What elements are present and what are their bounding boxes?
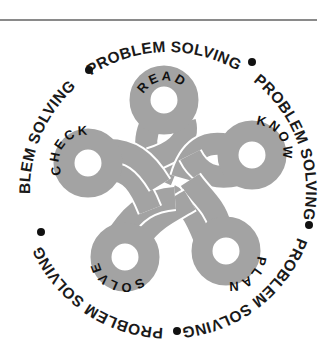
separator-dot-icon — [248, 58, 256, 66]
loop-plan: PLAN — [202, 227, 269, 294]
loop-solve: SOLVE — [87, 233, 149, 295]
loop-check: CHECK — [47, 123, 112, 187]
loop-read: READ — [134, 68, 190, 124]
separator-dot-icon — [305, 221, 313, 229]
problem-solving-knot-diagram: READ KNOW PLAN SOLVE CHECK PROBLEM SOLVI… — [0, 0, 334, 360]
separator-dot-icon — [37, 228, 45, 236]
separator-dot-icon — [173, 327, 181, 335]
separator-dot-icon — [85, 66, 93, 74]
